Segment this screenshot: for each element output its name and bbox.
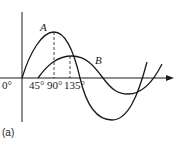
- tick-label-45: 45°: [29, 79, 44, 91]
- tick-label-90: 90°: [47, 79, 62, 91]
- curve-b-label: B: [95, 54, 102, 66]
- x-axis-arrow-icon: [166, 75, 174, 81]
- curve-a: [22, 32, 147, 120]
- figure-caption: (a): [2, 127, 14, 138]
- phase-shift-diagram: A B 0° 45° 90° 135°: [0, 0, 183, 149]
- tick-label-0: 0°: [2, 79, 12, 91]
- tick-label-135: 135°: [64, 79, 85, 91]
- curve-a-label: A: [39, 21, 47, 33]
